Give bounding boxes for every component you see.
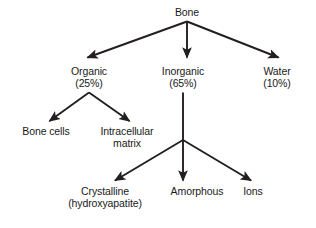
- node-crystalline-label: Crystalline: [81, 185, 129, 197]
- node-ions: Ions: [232, 186, 274, 198]
- node-inorganic-label: Inorganic: [162, 65, 204, 77]
- node-bone-cells-label: Bone cells: [22, 125, 69, 137]
- node-organic-label: Organic: [71, 65, 107, 77]
- edge-organic-to-intracellular-matrix: [89, 93, 130, 122]
- node-crystalline: Crystalline (hydroxyapatite): [56, 186, 154, 209]
- node-ions-label: Ions: [243, 185, 262, 197]
- node-bone-label: Bone: [175, 6, 199, 18]
- node-intracellular-matrix-label: Intracellular: [101, 125, 154, 137]
- bone-composition-diagram: Bone Organic (25%) Inorganic (65%) Water…: [0, 0, 316, 228]
- node-amorphous-label: Amorphous: [171, 185, 224, 197]
- node-water-value: (10%): [246, 78, 308, 90]
- node-inorganic: Inorganic (65%): [150, 66, 216, 89]
- node-water-label: Water: [263, 65, 290, 77]
- edge-bone-to-water: [187, 22, 279, 58]
- node-amorphous: Amorphous: [161, 186, 233, 198]
- node-organic-value: (25%): [57, 78, 121, 90]
- edge-organic-to-bone-cells: [50, 93, 90, 122]
- node-water: Water (10%): [246, 66, 308, 89]
- node-crystalline-label-line2: (hydroxyapatite): [56, 198, 154, 210]
- node-inorganic-value: (65%): [150, 78, 216, 90]
- node-intracellular-matrix: Intracellular matrix: [90, 126, 164, 149]
- node-bone: Bone: [155, 7, 219, 19]
- edge-inorganic-to-ions: [183, 140, 251, 181]
- node-organic: Organic (25%): [57, 66, 121, 89]
- node-intracellular-matrix-label-line2: matrix: [90, 138, 164, 150]
- edge-bone-to-organic: [88, 22, 188, 58]
- node-bone-cells: Bone cells: [10, 126, 82, 138]
